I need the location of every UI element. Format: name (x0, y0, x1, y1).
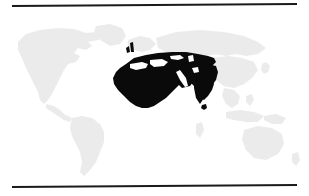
figure-root (0, 0, 309, 196)
landmass-southeast-asia (222, 88, 240, 108)
landmass-greenland (94, 24, 126, 46)
landmass-new-guinea (264, 114, 286, 124)
landmass-north-america (18, 28, 104, 104)
figure-caption (12, 188, 297, 195)
range-sri-lanka (201, 104, 207, 110)
landmass-indonesia (226, 110, 264, 122)
landmass-japan (261, 62, 270, 74)
world-distribution-map (0, 12, 309, 180)
range-british-isles (126, 46, 130, 53)
landmass-central-america (46, 104, 72, 122)
map-svg (0, 12, 309, 180)
landmass-madagascar (196, 122, 204, 138)
landmass-philippines (246, 94, 254, 106)
landmass-australia (242, 126, 284, 160)
gap-caspian (188, 55, 194, 62)
landmass-south-america (70, 116, 104, 176)
top-rule (12, 3, 297, 7)
landmass-new-zealand (292, 152, 300, 166)
